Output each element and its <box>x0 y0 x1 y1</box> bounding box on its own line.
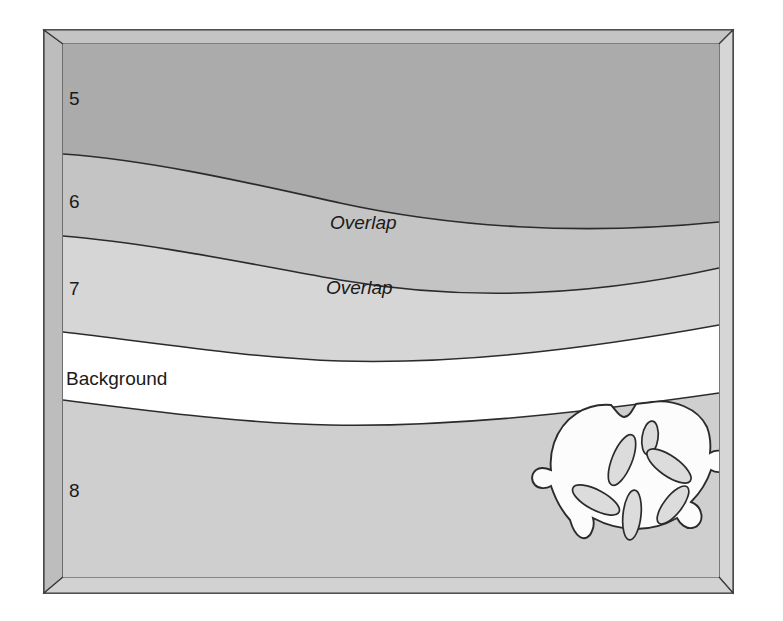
frame-bevel-bottom <box>44 577 733 593</box>
frame-bevel-left <box>44 30 63 593</box>
stratigraphy-diagram: 5 6 7 8 Background Overlap Overlap <box>0 0 783 621</box>
label-overlap-lower: Overlap <box>326 277 393 298</box>
label-layer-8: 8 <box>69 480 80 501</box>
cross-section-bands <box>63 44 729 577</box>
label-layer-5: 5 <box>69 88 80 109</box>
frame-bevel-right <box>719 30 733 593</box>
diagram-canvas: 5 6 7 8 Background Overlap Overlap <box>0 0 783 621</box>
label-background: Background <box>66 368 167 389</box>
frame-bevel-top <box>44 30 733 44</box>
label-layer-7: 7 <box>69 278 80 299</box>
label-layer-6: 6 <box>69 191 80 212</box>
label-overlap-upper: Overlap <box>330 212 397 233</box>
